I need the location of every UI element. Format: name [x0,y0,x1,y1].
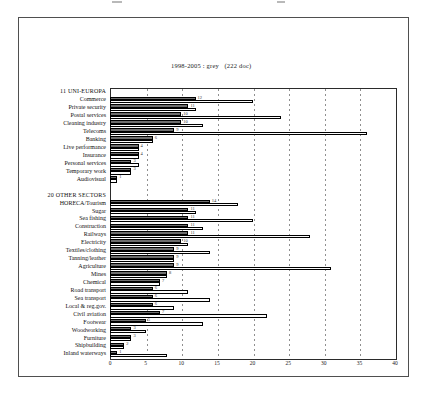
bar-pair: 9 [110,128,395,136]
category-label: Cleaning industry [20,120,110,127]
x-axis-tick-35: 35 [357,360,363,366]
chart-row: Shipbuilding2 [20,342,395,350]
chart-row: Sugar11 [20,207,395,215]
bar-1978-2005 [110,227,203,230]
x-axis-tick-15: 15 [214,360,220,366]
category-label: Construction [20,223,110,230]
category-label: Agriculture [20,263,110,270]
bar-pair: 10 [110,239,395,247]
category-label: Furniture [20,335,110,342]
chart-row: Civil aviation7 [20,310,395,318]
category-label: Chemical [20,279,110,286]
category-label: Mines [20,271,110,278]
bar-1978-2005 [110,290,188,293]
bar-pair: 11 [110,215,395,223]
bar-1978-2005 [110,267,331,270]
bar-pair: 6 [110,294,395,302]
category-label: Road transport [20,287,110,294]
category-label: Live performance [20,144,110,151]
bar-1978-2005 [110,148,139,151]
bar-pair: 10 [110,120,395,128]
category-label: Private security [20,104,110,111]
bar-pair: 12 [110,96,395,104]
bar-1978-2005 [110,211,196,214]
section-header-row: 11 UNI-EUROPA [20,88,395,96]
legend-line-grey: 1998-2005 : grey (222 doc) [171,59,254,73]
category-label: Electricity [20,239,110,246]
chart-row: Inland waterways1 [20,350,395,358]
chart-row: Banking6 [20,136,395,144]
chart-row: Telecoms9 [20,128,395,136]
bar-1978-2005 [110,259,174,262]
scan-artifact [112,1,122,3]
bar-1978-2005 [110,282,160,285]
bar-1978-2005 [110,322,203,325]
bar-1978-2005 [110,314,267,317]
chart-row: Live performance4 [20,144,395,152]
chart-row: Railways11 [20,231,395,239]
chart-row: Cleaning industry10 [20,120,395,128]
chart-row: Tanning/leather9 [20,255,395,263]
bar-1978-2005 [110,346,124,349]
category-label: Sea transport [20,295,110,302]
chart-row: Postal services10 [20,112,395,120]
bar-pair: 5 [110,318,395,326]
bar-1978-2005 [110,132,367,135]
bar-pair: 7 [110,279,395,287]
bar-pair: 11 [110,104,395,112]
bar-pair: 10 [110,112,395,120]
bar-pair: 3 [110,326,395,334]
chart-row: Road transport6 [20,286,395,294]
chart-row: HORECA/Tourism14 [20,199,395,207]
bar-pair: 11 [110,223,395,231]
chart-row: Chemical7 [20,279,395,287]
bar-pair: 11 [110,207,395,215]
bar-1978-2005 [110,330,146,333]
bar-pair: 14 [110,199,395,207]
bar-pair: 6 [110,136,395,144]
category-label: Audiovisual [20,176,110,183]
chart-row: Furniture3 [20,334,395,342]
bar-pair: 6 [110,286,395,294]
chart-row: Sea transport6 [20,294,395,302]
figure-canvas: 1998-2005 : grey (222 doc) 1978-2005 : w… [0,0,425,394]
category-label: Commerce [20,96,110,103]
bar-pair: 3 [110,159,395,167]
section-header-row: 20 OTHER SECTORS [20,191,395,199]
category-label: Inland waterways [20,350,110,357]
bar-1978-2005 [110,235,310,238]
chart-row: Private security11 [20,104,395,112]
bar-1978-2005 [110,116,281,119]
category-label: Woodworking [20,327,110,334]
section-header-label: 20 OTHER SECTORS [20,192,110,199]
bar-1978-2005 [110,251,210,254]
category-label: Tanning/leather [20,255,110,262]
bar-1978-2005 [110,354,167,357]
bar-pair: 1 [110,175,395,183]
chart-row: Sea fishing11 [20,215,395,223]
bar-pair: 3 [110,167,395,175]
x-axis-tick-10: 10 [179,360,185,366]
x-axis: 0510152025303540 [110,360,395,370]
chart-row: Construction11 [20,223,395,231]
bar-pair: 4 [110,144,395,152]
bar-pair: 2 [110,342,395,350]
chart-row: Woodworking3 [20,326,395,334]
category-label: Footwear [20,319,110,326]
chart-row: Local & reg.gov.6 [20,302,395,310]
bar-pair: 9 [110,247,395,255]
category-label: Temporary work [20,168,110,175]
bar-1978-2005 [110,219,253,222]
bar-1978-2005 [110,100,253,103]
chart-row: Electricity10 [20,239,395,247]
x-axis-tick-30: 30 [321,360,327,366]
scan-artifact [277,1,285,3]
bar-pair: 1 [110,350,395,358]
chart-row: Commerce12 [20,96,395,104]
category-label: Sea fishing [20,215,110,222]
chart-row: Personal services3 [20,159,395,167]
category-label: Banking [20,136,110,143]
category-label: Shipbuilding [20,342,110,349]
category-label: Sugar [20,208,110,215]
category-label: Local & reg.gov. [20,303,110,310]
